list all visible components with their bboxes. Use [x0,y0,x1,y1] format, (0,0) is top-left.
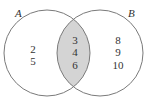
intersection-element: 4 [72,46,78,58]
a-only-element: 5 [30,55,36,67]
intersection-element: 3 [72,34,78,46]
b-only-element: 9 [115,46,121,58]
set-b-label: B [128,7,135,19]
b-only-element: 8 [115,34,121,46]
b-only-element: 10 [113,59,125,71]
set-a-label: A [14,7,22,19]
intersection-element: 6 [72,59,78,71]
venn-diagram: A B 2 5 3 4 6 8 9 10 [0,0,144,101]
a-only-element: 2 [30,43,36,55]
